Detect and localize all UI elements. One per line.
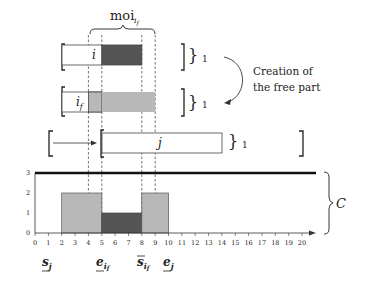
- brace-right: }: [188, 46, 198, 65]
- marker-e-if: eif: [96, 255, 111, 272]
- marker-s-j: sj: [42, 255, 52, 271]
- x-tick: 18: [271, 239, 279, 247]
- x-tick: 15: [231, 239, 239, 247]
- activity-j-height: 1: [242, 140, 248, 150]
- x-tick: 9: [153, 239, 157, 247]
- x-tick: 11: [178, 239, 186, 247]
- x-tick: 4: [86, 239, 90, 247]
- x-tick: 10: [164, 239, 172, 247]
- diagram-canvas: moi if i } 1 if } 1 Creation of the free…: [0, 0, 365, 285]
- x-tick: 14: [218, 239, 226, 247]
- activity-i: i } 1: [62, 44, 208, 70]
- x-tick: 16: [244, 239, 252, 247]
- resource-chart: 0 1 2 3 0 1 2 3 4 5 6 7 8 9 10 11 12 13 …: [26, 169, 346, 247]
- x-markers: sj eif sif ej: [42, 255, 174, 272]
- capacity-brace: [324, 172, 333, 234]
- x-tick: 2: [60, 239, 64, 247]
- moi-subscript: if: [134, 16, 141, 27]
- x-tick: 12: [191, 239, 199, 247]
- x-tick: 17: [258, 239, 266, 247]
- x-tick: 20: [298, 239, 306, 247]
- marker-e-j: ej: [163, 255, 174, 271]
- brace-right: }: [188, 93, 198, 112]
- x-tick: 0: [33, 239, 37, 247]
- creation-arrow: Creation of the free part: [224, 57, 321, 105]
- y-tick: 3: [26, 169, 30, 177]
- x-tick: 13: [204, 239, 212, 247]
- x-tick: 6: [113, 239, 117, 247]
- activity-j: j } 1: [49, 130, 303, 157]
- y-tick: 0: [26, 229, 30, 237]
- marker-s-if: sif: [137, 255, 151, 272]
- x-tick: 19: [285, 239, 293, 247]
- annotation-line-1: Creation of: [253, 65, 314, 77]
- activity-i-label: i: [92, 48, 96, 62]
- activity-i-height: 1: [202, 54, 208, 64]
- brace-right: }: [228, 132, 238, 151]
- x-tick: 8: [140, 239, 144, 247]
- y-tick: 1: [26, 209, 30, 217]
- annotation-line-2: the free part: [253, 81, 321, 93]
- moi-brace: moi if: [90, 8, 155, 34]
- capacity-label: C: [336, 196, 346, 211]
- y-tick: 2: [26, 189, 30, 197]
- x-tick: 1: [46, 239, 50, 247]
- activity-if-height: 1: [202, 100, 208, 110]
- x-tick: 7: [126, 239, 130, 247]
- activity-if: if } 1: [62, 87, 208, 116]
- x-tick: 3: [73, 239, 77, 247]
- x-tick: 5: [100, 239, 104, 247]
- moi-label: moi: [110, 8, 134, 23]
